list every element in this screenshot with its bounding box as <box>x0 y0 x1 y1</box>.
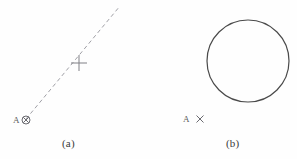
panel-b-graphics <box>150 0 297 159</box>
figure-root: A (a) A (b) <box>0 0 297 159</box>
x-marker <box>197 116 204 123</box>
panel-a-graphics <box>0 0 150 159</box>
point-label-a-panel-a: A <box>13 115 20 125</box>
figure-panel-b: A (b) <box>150 0 297 159</box>
figure-panel-a: A (a) <box>0 0 150 159</box>
solid-circle <box>207 20 289 102</box>
point-label-a-panel-b: A <box>183 114 190 124</box>
caption-panel-a: (a) <box>62 137 75 149</box>
cross-marker <box>71 55 87 71</box>
circle-x-icon <box>22 116 30 124</box>
caption-panel-b: (b) <box>226 137 239 149</box>
